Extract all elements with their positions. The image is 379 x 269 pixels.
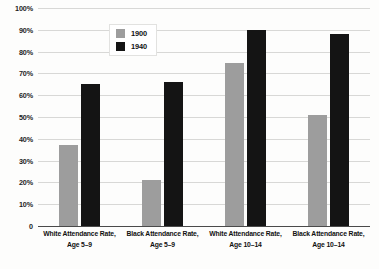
legend-item-1900[interactable]: 1900 [116,29,147,38]
plot-area: 100%90%80%70%60%50%40%30%20%10%0 [38,8,370,226]
x-axis-category-label: Black Attendance Rate,Age 5–9 [121,229,204,250]
y-axis-tick-label: 10% [19,200,33,209]
y-axis-tick-label: 60% [19,91,33,100]
y-axis-tick-label: 100% [15,4,33,13]
gridline-0 [38,226,370,227]
y-axis-tick-label: 50% [19,113,33,122]
bar-1940[interactable] [247,30,266,226]
x-axis-category-label: Black Attendance Rate,Age 10–14 [287,229,370,250]
bar-1940[interactable] [81,84,100,226]
bar-group [204,8,287,226]
y-axis-tick-label: 20% [19,178,33,187]
bars-layer [38,8,370,226]
bar-group [287,8,370,226]
x-axis-category-label: White Attendance Rate,Age 5–9 [38,229,121,250]
y-axis-tick-label: 40% [19,134,33,143]
bar-1900[interactable] [308,115,327,226]
legend-label: 1940 [131,42,147,51]
x-axis-category-label: White Attendance Rate,Age 10–14 [204,229,287,250]
x-axis-labels: White Attendance Rate,Age 5–9Black Atten… [38,229,370,250]
bar-1900[interactable] [225,63,244,227]
y-axis-tick-label: 90% [19,25,33,34]
legend-swatch-1940 [116,42,125,51]
legend-label: 1900 [131,29,147,38]
y-axis-tick-label: 70% [19,69,33,78]
bar-1940[interactable] [164,82,183,226]
y-axis-tick-label: 0 [29,222,33,231]
bar-1940[interactable] [330,34,349,226]
chart-legend: 19001940 [109,24,157,56]
y-axis-tick-label: 30% [19,156,33,165]
y-axis-tick-label: 80% [19,47,33,56]
bar-1900[interactable] [142,180,161,226]
legend-item-1940[interactable]: 1940 [116,42,147,51]
bar-1900[interactable] [59,145,78,226]
legend-swatch-1900 [116,29,125,38]
bar-chart: 100%90%80%70%60%50%40%30%20%10%0 White A… [0,0,379,269]
